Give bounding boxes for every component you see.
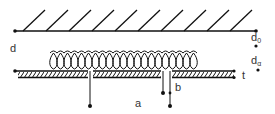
label-b: b — [175, 81, 181, 93]
substrate — [13, 69, 235, 79]
dalpha-point — [256, 68, 259, 71]
label-dalpha: dα — [251, 54, 261, 67]
diagram-canvas: d d0 dα t a b — [0, 0, 275, 114]
label-a: a — [135, 97, 142, 109]
ground-plane — [13, 10, 258, 33]
label-d0: d0 — [251, 31, 261, 44]
lead-a — [88, 71, 92, 108]
lead-b — [161, 71, 172, 108]
coil-layer — [50, 51, 198, 69]
label-t: t — [242, 69, 245, 81]
d0-point — [254, 44, 257, 47]
label-d: d — [10, 42, 16, 54]
